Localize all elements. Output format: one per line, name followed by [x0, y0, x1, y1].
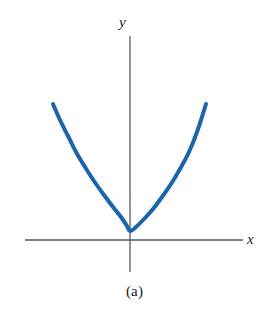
x-axis-label: x — [247, 232, 254, 247]
parabola-plot — [0, 0, 269, 314]
figure-container: y x (a) — [0, 0, 269, 314]
y-axis-label: y — [119, 15, 126, 30]
figure-caption: (a) — [0, 283, 269, 300]
